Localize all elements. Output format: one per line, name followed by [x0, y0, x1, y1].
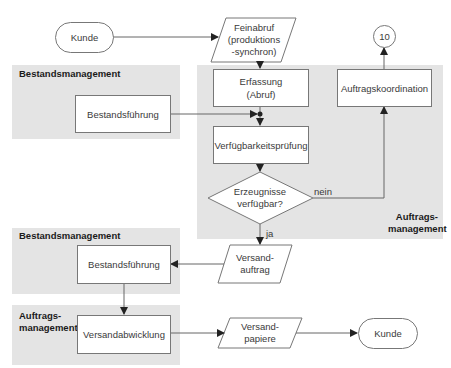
node-label-line: Feinabruf	[234, 22, 274, 34]
node-label-line: Versand-	[241, 321, 279, 333]
connector-label: 10	[379, 30, 390, 43]
process-erfassung[interactable]: Erfassung (Abruf)	[213, 69, 309, 107]
connector-circle-10[interactable]: 10	[373, 25, 396, 48]
edge-label-nein: nein	[314, 186, 332, 197]
node-label-line: Versand-	[236, 252, 274, 264]
end-terminal-kunde[interactable]: Kunde	[358, 318, 418, 349]
process-auftragskoordination[interactable]: Auftragskoordination	[337, 69, 432, 107]
node-label-line: Erfassung	[240, 75, 283, 88]
process-bestandsfuehrung-top[interactable]: Bestandsführung	[75, 95, 171, 133]
node-label-line: auftrag	[240, 264, 270, 276]
node-label: Kunde	[374, 327, 401, 340]
junction-dot	[258, 112, 263, 117]
node-label-line: (produktions	[228, 34, 280, 46]
process-bestandsfuehrung-bottom[interactable]: Bestandsführung	[77, 245, 171, 284]
node-label-line: papiere	[244, 333, 276, 345]
node-label: Versandabwicklung	[83, 328, 165, 341]
node-label-line: (Abruf)	[246, 88, 275, 101]
node-label-line: verfügbar?	[237, 198, 282, 210]
node-label: Bestandsführung	[88, 258, 160, 271]
node-label-line: -synchron)	[232, 46, 277, 58]
start-terminal-kunde[interactable]: Kunde	[55, 22, 114, 53]
decision-erzeugnisse-verfuegbar[interactable]: Erzeugnisse verfügbar?	[220, 184, 300, 212]
node-label: Verfügbarkeitsprüfung	[215, 139, 308, 152]
node-label-line: Erzeugnisse	[234, 186, 286, 198]
node-label: Auftragskoordination	[341, 82, 428, 95]
edge-label-ja: ja	[266, 228, 273, 239]
data-node-versandauftrag[interactable]: Versand- auftrag	[222, 245, 288, 283]
process-verfuegbarkeitspruefung[interactable]: Verfügbarkeitsprüfung	[213, 126, 309, 164]
node-label: Kunde	[71, 31, 98, 44]
node-label: Bestandsführung	[87, 108, 159, 121]
data-node-feinabruf[interactable]: Feinabruf (produktions -synchron)	[215, 18, 293, 62]
process-versandabwicklung[interactable]: Versandabwicklung	[77, 315, 171, 354]
data-node-versandpapiere[interactable]: Versand- papiere	[222, 318, 298, 348]
